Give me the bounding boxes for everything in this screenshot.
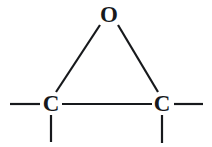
structure-canvas: O C C: [0, 0, 212, 147]
atom-label-carbon-right: C: [154, 91, 171, 116]
atom-label-carbon-left: C: [43, 91, 60, 116]
atom-label-oxygen: O: [100, 2, 118, 27]
chemical-structure-diagram: O C C: [0, 0, 212, 147]
